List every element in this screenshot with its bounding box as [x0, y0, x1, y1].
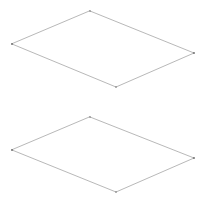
upper-plane-vertex-right[interactable] — [193, 52, 195, 54]
upper-plane-vertex-bottom[interactable] — [115, 86, 117, 88]
lower-plane-vertex-right[interactable] — [193, 157, 195, 159]
upper-plane-vertex-left[interactable] — [11, 43, 13, 45]
upper-plane-vertex-top[interactable] — [89, 10, 91, 12]
wireframe-scene — [0, 0, 206, 201]
lower-plane-vertex-top[interactable] — [89, 116, 91, 118]
drawing-canvas — [0, 0, 206, 201]
lower-plane-vertex-left[interactable] — [11, 149, 13, 151]
lower-plane-vertex-bottom[interactable] — [115, 191, 117, 193]
